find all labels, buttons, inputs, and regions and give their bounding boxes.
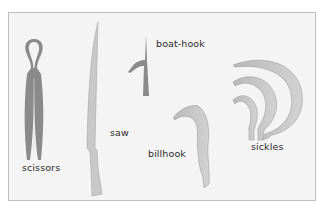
label-saw: saw <box>110 128 129 138</box>
label-scissors: scissors <box>22 163 60 173</box>
boat-hook-icon <box>128 35 149 96</box>
saw-icon <box>87 22 102 196</box>
label-billhook: billhook <box>148 149 186 159</box>
sickles-icon <box>233 60 302 140</box>
label-sickles: sickles <box>251 142 283 152</box>
label-boat-hook: boat-hook <box>156 39 205 49</box>
tools-illustration <box>0 0 325 211</box>
scissors-icon <box>25 39 44 160</box>
billhook-icon <box>173 106 209 189</box>
